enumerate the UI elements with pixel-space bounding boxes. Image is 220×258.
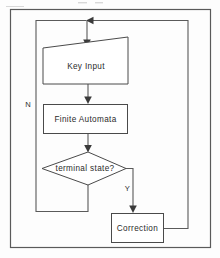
branch-label-no: N xyxy=(25,100,31,109)
scan-artifact xyxy=(95,2,103,3)
branch-label-yes: Y xyxy=(125,184,130,193)
node-terminal-state-label: terminal state? xyxy=(56,164,115,173)
node-key-input-label: Key Input xyxy=(67,62,105,71)
arrowhead-into-terminal-state xyxy=(84,145,92,153)
scan-artifact xyxy=(6,6,24,7)
arrowhead-into-finite-automata xyxy=(84,97,92,105)
scan-artifact xyxy=(78,2,87,3)
flowchart-diagram: Key Input Finite Automata terminal state… xyxy=(0,0,220,258)
flowchart-canvas: Key Input Finite Automata terminal state… xyxy=(0,0,220,258)
node-finite-automata-label: Finite Automata xyxy=(54,115,116,124)
arrowhead-into-correction xyxy=(129,206,137,214)
node-key-input xyxy=(43,37,128,84)
node-correction-label: Correction xyxy=(117,224,158,233)
